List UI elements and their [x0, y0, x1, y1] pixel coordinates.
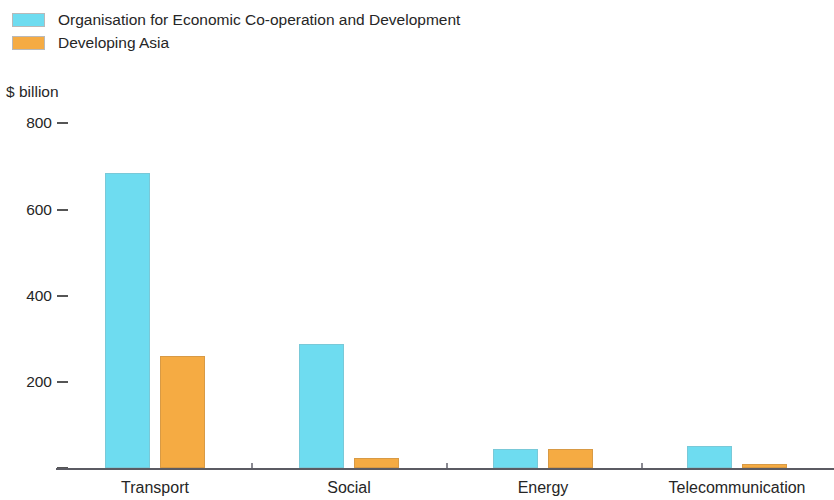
y-axis-tick-600: 600	[0, 201, 68, 219]
x-axis-line	[56, 468, 834, 470]
x-axis-separator-tick	[641, 463, 643, 468]
x-axis-label-social: Social	[327, 479, 371, 497]
y-axis-tick-mark	[57, 209, 68, 211]
bar-developing-asia-transport	[160, 356, 205, 468]
plot-area: 800 600 400 200 Transport Social Energy …	[0, 0, 834, 500]
y-axis-tick-mark	[57, 295, 68, 297]
y-axis-tick-800: 800	[0, 114, 68, 132]
x-axis-separator-tick	[446, 463, 448, 468]
y-axis-tick-mark	[57, 122, 68, 124]
bar-developing-asia-social	[354, 458, 399, 468]
y-axis-tick-200: 200	[0, 373, 68, 391]
x-axis-separator-tick	[251, 463, 253, 468]
x-axis-label-transport: Transport	[121, 479, 189, 497]
bar-developing-asia-energy	[548, 449, 593, 468]
x-axis-label-telecommunication: Telecommunication	[669, 479, 806, 497]
x-axis-label-energy: Energy	[518, 479, 569, 497]
y-axis-tick-400: 400	[0, 287, 68, 305]
bar-oecd-transport	[105, 173, 150, 468]
bar-oecd-telecommunication	[687, 446, 732, 468]
bar-chart: Organisation for Economic Co-operation a…	[0, 0, 834, 500]
bar-oecd-social	[299, 344, 344, 468]
bar-oecd-energy	[493, 449, 538, 468]
y-axis-tick-mark	[57, 381, 68, 383]
